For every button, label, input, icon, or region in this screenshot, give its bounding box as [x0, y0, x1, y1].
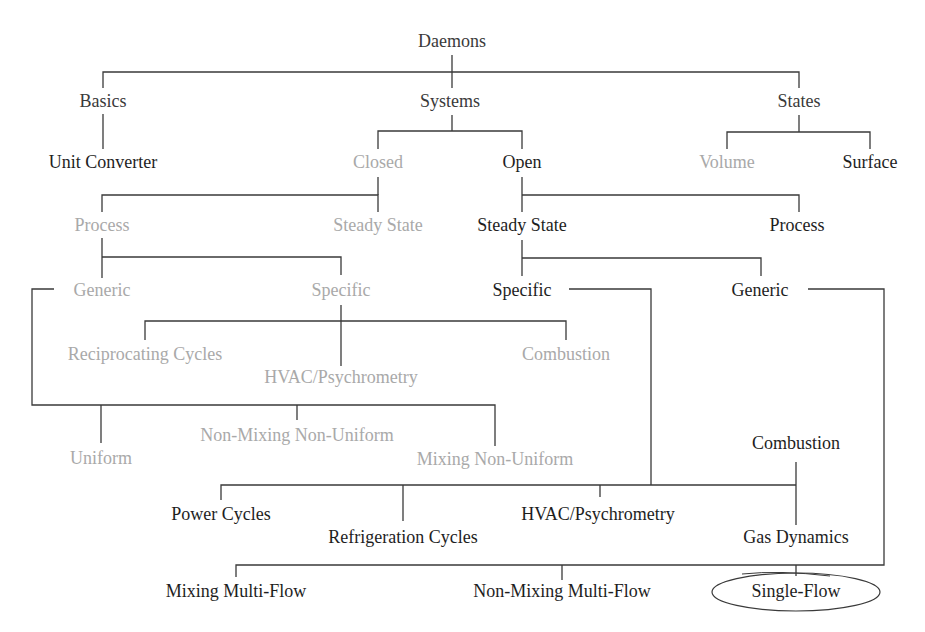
node-closed-combustion[interactable]: Combustion — [522, 344, 610, 364]
node-mixing-multi-flow[interactable]: Mixing Multi-Flow — [166, 581, 307, 601]
node-closed-hvac[interactable]: HVAC/Psychrometry — [264, 367, 418, 387]
node-surface[interactable]: Surface — [843, 152, 898, 172]
node-closed-generic[interactable]: Generic — [74, 280, 131, 300]
node-closed-steady-state[interactable]: Steady State — [333, 215, 422, 235]
node-non-mixing-non-uniform[interactable]: Non-Mixing Non-Uniform — [200, 425, 393, 445]
node-open-steady-state[interactable]: Steady State — [477, 215, 566, 235]
node-gas-dynamics[interactable]: Gas Dynamics — [743, 527, 848, 547]
node-uniform[interactable]: Uniform — [70, 448, 132, 468]
node-open-specific[interactable]: Specific — [493, 280, 552, 300]
node-open-process[interactable]: Process — [770, 215, 825, 235]
node-closed-process[interactable]: Process — [75, 215, 130, 235]
node-open-combustion[interactable]: Combustion — [752, 433, 840, 453]
node-closed-specific[interactable]: Specific — [312, 280, 371, 300]
node-basics[interactable]: Basics — [80, 91, 127, 111]
node-daemons[interactable]: Daemons — [418, 31, 486, 51]
node-states[interactable]: States — [778, 91, 821, 111]
node-single-flow-selected[interactable]: Single-Flow — [751, 581, 840, 601]
node-open-generic[interactable]: Generic — [732, 280, 789, 300]
node-closed[interactable]: Closed — [353, 152, 403, 172]
node-power-cycles[interactable]: Power Cycles — [171, 504, 270, 524]
node-open[interactable]: Open — [503, 152, 542, 172]
node-systems[interactable]: Systems — [420, 91, 480, 111]
node-non-mixing-multi-flow[interactable]: Non-Mixing Multi-Flow — [473, 581, 651, 601]
node-unit-converter[interactable]: Unit Converter — [49, 152, 157, 172]
node-mixing-non-uniform[interactable]: Mixing Non-Uniform — [417, 449, 574, 469]
node-volume[interactable]: Volume — [699, 152, 755, 172]
node-refrigeration-cycles[interactable]: Refrigeration Cycles — [328, 527, 477, 547]
node-closed-reciprocating-cycles[interactable]: Reciprocating Cycles — [68, 344, 222, 364]
node-open-hvac[interactable]: HVAC/Psychrometry — [521, 504, 675, 524]
